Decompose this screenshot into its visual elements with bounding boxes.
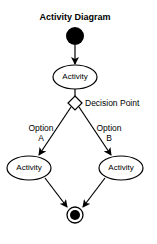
- diagram-graphics: [0, 0, 157, 244]
- decision-point-label: Decision Point: [85, 98, 139, 108]
- option-a-label-line2: A: [28, 133, 54, 143]
- option-a-label-line1: Option: [28, 123, 54, 133]
- option-b-label-line1: Option: [96, 123, 122, 133]
- activity-left-label: Activity: [7, 163, 51, 173]
- activity-diagram: Activity Diagram Activity: [0, 0, 157, 244]
- activity-right-label: Activity: [99, 163, 143, 173]
- activity-top-label: Activity: [53, 72, 97, 82]
- initial-node: [66, 27, 84, 45]
- final-node-inner: [70, 210, 80, 220]
- option-b-label: Option B: [96, 123, 122, 143]
- option-b-label-line2: B: [96, 133, 122, 143]
- edge-left-to-final: [45, 178, 67, 207]
- edge-right-to-final: [83, 178, 105, 207]
- option-a-label: Option A: [28, 123, 54, 143]
